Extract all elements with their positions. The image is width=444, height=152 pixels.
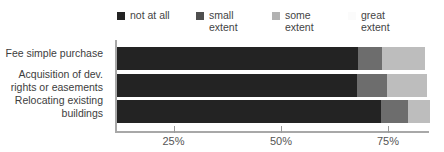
chart-legend: not at all small extent some extent grea… <box>0 0 444 38</box>
category-label-relocating-existing-buildings: Relocating existing buildings <box>15 94 103 119</box>
x-axis-tick-75 <box>388 126 389 133</box>
legend-swatch-icon-not-at-all <box>117 12 125 20</box>
bar-segment-some-extent <box>408 100 430 123</box>
x-axis-tick-label-25: 25% <box>162 135 184 147</box>
bar-segment-some-extent <box>382 47 425 70</box>
x-axis-tick-label-50: 50% <box>270 135 292 147</box>
bar-segment-small-extent <box>357 74 387 97</box>
legend-item-some-extent: some extent <box>272 9 314 33</box>
legend-swatch-icon-some-extent <box>272 12 280 20</box>
bar-segment-small-extent <box>358 47 382 70</box>
category-label-fee-simple-purchase: Fee simple purchase <box>6 47 103 60</box>
x-axis-line <box>115 131 429 133</box>
bar-segment-some-extent <box>387 74 427 97</box>
legend-label-small-extent: small extent <box>209 9 238 33</box>
legend-item-small-extent: small extent <box>196 9 238 33</box>
legend-label-not-at-all: not at all <box>130 9 170 21</box>
x-axis-tick-50 <box>281 126 282 133</box>
x-axis-tick-25 <box>174 126 175 133</box>
legend-label-some-extent: some extent <box>285 9 314 33</box>
category-label-acquisition-of-dev-rights: Acquisition of dev. rights or easements <box>11 68 103 93</box>
bar-segment-small-extent <box>381 100 408 123</box>
legend-item-great-extent: great extent <box>348 9 390 33</box>
legend-swatch-icon-great-extent <box>348 12 356 20</box>
bar-segment-not-at-all <box>117 100 381 123</box>
legend-item-not-at-all: not at all <box>117 9 170 21</box>
stacked-bar-chart: not at all small extent some extent grea… <box>0 0 444 152</box>
bar-segment-not-at-all <box>117 47 358 70</box>
legend-label-great-extent: great extent <box>361 9 390 33</box>
plot-area: Fee simple purchase Acquisition of dev. … <box>0 38 444 152</box>
legend-swatch-icon-small-extent <box>196 12 204 20</box>
bar-segment-not-at-all <box>117 74 357 97</box>
x-axis-tick-label-75: 75% <box>377 135 399 147</box>
